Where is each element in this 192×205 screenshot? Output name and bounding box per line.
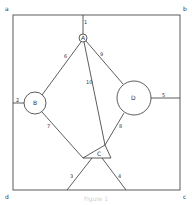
edge-10 [84,42,105,145]
corner-label-b: b [183,5,187,12]
edge-label-7: 7 [47,123,50,129]
figure-caption: Figure 1 [84,195,108,203]
edge-label-1: 1 [84,19,87,25]
node-label-c: C [97,150,101,157]
edge-label-3: 3 [70,173,73,179]
edge-8 [105,113,124,145]
edge-label-8: 8 [119,123,122,129]
corner-label-a: a [5,5,9,12]
edge-label-5: 5 [162,92,165,98]
network-diagram: a b c d A B C D 1 2 3 4 5 6 7 8 9 10 Fig… [0,0,192,205]
edge-7 [42,112,83,158]
edge-label-4: 4 [118,173,121,179]
edge-6 [42,42,81,95]
edge-label-6: 6 [64,53,67,59]
edge-4 [102,158,126,190]
edge-label-9: 9 [100,51,103,57]
corner-label-d: d [5,193,9,200]
corner-label-c: c [183,193,186,200]
edge-label-2: 2 [16,97,19,103]
node-label-d: D [131,94,136,101]
node-label-b: B [33,99,37,106]
edge-label-10: 10 [86,79,92,85]
